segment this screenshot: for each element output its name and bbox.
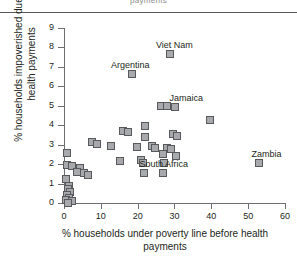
y-axis-tick-label: 0	[40, 198, 54, 207]
data-point-marker[interactable]	[141, 122, 149, 130]
data-point-marker[interactable]	[124, 128, 132, 136]
scatter-plot-figure: payments 01234567890102030405060 Viet Na…	[0, 0, 297, 260]
data-point-marker[interactable]	[171, 103, 179, 111]
data-point-marker[interactable]	[255, 159, 263, 167]
data-point-marker[interactable]	[107, 142, 115, 150]
x-axis-tick-label: 30	[164, 212, 184, 221]
x-axis-tick-label: 40	[201, 212, 221, 221]
x-axis-tick	[211, 203, 212, 209]
y-axis-tick	[58, 184, 64, 185]
data-point-label: Argentina	[111, 60, 150, 70]
y-axis-tick	[58, 125, 64, 126]
x-axis-tick-label: 60	[275, 212, 295, 221]
y-axis-tick	[58, 28, 64, 29]
data-point-label: Jamaica	[169, 93, 203, 103]
data-point-marker[interactable]	[133, 143, 141, 151]
data-point-marker[interactable]	[141, 133, 149, 141]
y-axis-tick	[58, 67, 64, 68]
data-point-marker[interactable]	[84, 171, 92, 179]
data-point-marker[interactable]	[64, 199, 72, 207]
data-point-marker[interactable]	[93, 140, 101, 148]
data-point-marker[interactable]	[128, 70, 136, 78]
x-axis-tick-label: 20	[128, 212, 148, 221]
x-axis-title: % households under poverty line before h…	[40, 227, 290, 253]
x-axis-tick-label: 0	[54, 212, 74, 221]
data-point-marker[interactable]	[173, 132, 181, 140]
data-point-label: Viet Nam	[156, 40, 193, 50]
data-point-marker[interactable]	[159, 169, 167, 177]
y-axis-tick	[58, 106, 64, 107]
y-axis-title-wrapper: % households impoverished due to health …	[12, 0, 44, 154]
x-axis-tick-label: 10	[91, 212, 111, 221]
y-axis-tick-label: 1	[40, 179, 54, 188]
x-axis-tick	[101, 203, 102, 209]
y-axis-tick	[58, 47, 64, 48]
x-axis-tick-label: 50	[238, 212, 258, 221]
data-point-marker[interactable]	[206, 116, 214, 124]
data-point-marker[interactable]	[163, 102, 171, 110]
x-axis-tick	[248, 203, 249, 209]
data-point-marker[interactable]	[140, 169, 148, 177]
data-point-marker[interactable]	[63, 149, 71, 157]
y-axis-tick	[58, 86, 64, 87]
data-point-marker[interactable]	[159, 150, 167, 158]
x-axis-tick	[285, 203, 286, 209]
x-axis-tick	[138, 203, 139, 209]
x-axis-tick	[174, 203, 175, 209]
plot-area: 01234567890102030405060 Viet NamArgentin…	[0, 0, 297, 260]
data-point-label: South Africa	[140, 159, 189, 169]
data-point-marker[interactable]	[166, 50, 174, 58]
y-axis-tick-label: 2	[40, 159, 54, 168]
y-axis-tick	[58, 145, 64, 146]
data-point-label: Zambia	[251, 149, 281, 159]
y-axis-title: % households impoverished due to health …	[12, 0, 38, 154]
data-point-marker[interactable]	[116, 157, 124, 165]
